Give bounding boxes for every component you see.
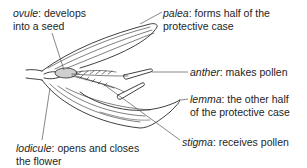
anther-shape <box>117 69 152 99</box>
palea-desc-line1: : forms half of the <box>189 7 270 19</box>
ovule-desc-line1: : develops <box>38 7 86 19</box>
stigma-term: stigma <box>182 136 213 148</box>
lodicule-leader <box>42 88 50 140</box>
stigma-desc-line1: : receives pollen <box>213 136 289 148</box>
palea-leader <box>140 12 162 24</box>
palea-label: palea: forms half of the protective case <box>163 7 270 32</box>
lodicule-desc-line1: : opens and closes <box>52 142 140 154</box>
lemma-desc-line1: : the other half <box>222 93 289 105</box>
lodicule-desc-line2: the flower <box>16 155 139 168</box>
lemma-term: lemma <box>190 93 222 105</box>
lodicule-term: lodicule <box>16 142 52 154</box>
ovule-leader <box>52 33 64 70</box>
anther-label: anther: makes pollen <box>190 66 287 79</box>
ovule-desc-line2: into a seed <box>13 20 86 33</box>
filaments <box>72 74 128 92</box>
palea-desc-line2: protective case <box>163 20 270 33</box>
ovule-label: ovule: develops into a seed <box>13 7 86 32</box>
ovule-term: ovule <box>13 7 38 19</box>
anther-term: anther <box>190 66 220 78</box>
stigma-shape <box>76 71 116 89</box>
palea-term: palea <box>163 7 189 19</box>
anther-desc-line1: : makes pollen <box>220 66 288 78</box>
stalk <box>26 70 42 80</box>
lodicule-label: lodicule: opens and closes the flower <box>16 142 139 167</box>
lemma-label: lemma: the other half of the protective … <box>190 93 290 118</box>
lemma-desc-line2: of the protective case <box>190 106 290 119</box>
stigma-label: stigma: receives pollen <box>182 136 289 149</box>
lemma-leader <box>181 99 188 100</box>
